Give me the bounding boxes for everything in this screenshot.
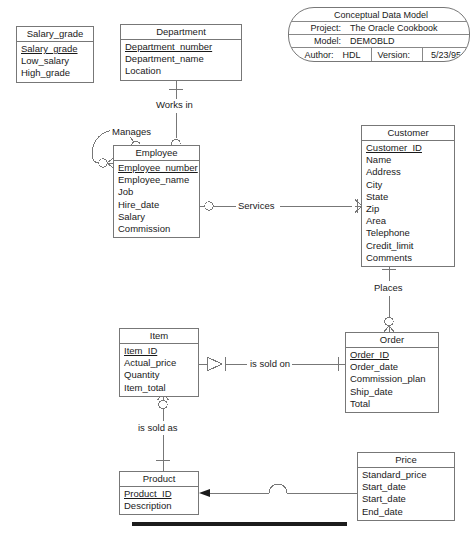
- entity-attributes-price: Standard_price Start_date Start_date End…: [358, 468, 454, 520]
- entity-title-product: Product: [120, 472, 198, 487]
- attribute: Employee_name: [114, 174, 199, 186]
- attribute: Department_number: [121, 41, 241, 53]
- entity-attributes-employee: Employee_number Employee_name Job Hire_d…: [114, 161, 199, 237]
- author-label: Author:: [289, 50, 338, 60]
- attribute: Item_ID: [120, 345, 198, 357]
- relationship-label-manages: Manages: [110, 126, 153, 137]
- relationship-line-services: [200, 199, 362, 213]
- title-block-project-row: Project: The Oracle Cookbook: [289, 22, 469, 35]
- attribute: Standard_price: [358, 469, 454, 481]
- attribute: Total: [346, 398, 438, 410]
- title-block-heading: Conceptual Data Model: [330, 10, 428, 20]
- entity-attributes-customer: Customer_ID Name Address City State Zip …: [362, 141, 454, 266]
- attribute: Product_ID: [120, 488, 198, 500]
- er-diagram-canvas: Conceptual Data Model Project: The Oracl…: [0, 0, 476, 535]
- attribute: City: [362, 179, 454, 191]
- entity-title-order: Order: [346, 333, 438, 348]
- attribute: Job: [114, 186, 199, 198]
- entity-attributes-product: Product_ID Description: [120, 487, 198, 514]
- entity-salary-grade[interactable]: Salary_grade Salary_grade Low_salary Hig…: [16, 26, 94, 83]
- attribute: Zip: [362, 203, 454, 215]
- relationship-line-price-product: [209, 484, 357, 493]
- model-label: Model:: [289, 36, 346, 46]
- attribute: Start_date: [358, 493, 454, 505]
- attribute: Low_salary: [17, 55, 93, 67]
- relationship-label-is-sold-on: is sold on: [248, 358, 292, 369]
- entity-title-customer: Customer: [362, 126, 454, 141]
- attribute: Telephone: [362, 227, 454, 239]
- project-label: Project:: [289, 23, 346, 33]
- relationship-label-works-in: Works in: [154, 99, 195, 110]
- version-label: Version:: [372, 50, 421, 60]
- attribute: Address: [362, 166, 454, 178]
- attribute: Salary_grade: [17, 43, 93, 55]
- entity-attributes-order: Order_ID Order_date Commission_plan Ship…: [346, 348, 438, 412]
- relationship-line-works-in: [169, 78, 183, 155]
- relationship-label-is-sold-as: is sold as: [136, 422, 180, 433]
- attribute: Order_date: [346, 361, 438, 373]
- attribute: Credit_limit: [362, 240, 454, 252]
- relationship-line-places: [382, 256, 396, 333]
- version-value: 5/23/95: [423, 50, 469, 60]
- attribute: Actual_price: [120, 357, 198, 369]
- entity-attributes-item: Item_ID Actual_price Quantity Item_total: [120, 344, 198, 396]
- attribute: Comments: [362, 252, 454, 264]
- entity-order[interactable]: Order Order_ID Order_date Commission_pla…: [345, 332, 439, 413]
- attribute: Ship_date: [346, 386, 438, 398]
- entity-title-price: Price: [358, 453, 454, 468]
- project-value: The Oracle Cookbook: [346, 23, 469, 33]
- attribute: Customer_ID: [362, 142, 454, 154]
- attribute: Order_ID: [346, 349, 438, 361]
- attribute: Commission_plan: [346, 373, 438, 385]
- bottom-rule: [132, 522, 347, 526]
- attribute: High_grade: [17, 67, 93, 79]
- attribute: Description: [120, 500, 198, 512]
- attribute: Salary: [114, 211, 199, 223]
- relationship-label-services: Services: [236, 200, 276, 211]
- entity-attributes-department: Department_number Department_name Locati…: [121, 40, 241, 80]
- title-block-heading-row: Conceptual Data Model: [289, 8, 469, 22]
- arrowhead-price-to-product: [199, 489, 210, 497]
- entity-attributes-salary-grade: Salary_grade Low_salary High_grade: [17, 42, 93, 82]
- entity-price[interactable]: Price Standard_price Start_date Start_da…: [357, 452, 455, 521]
- model-value: DEMOBLD: [346, 36, 469, 46]
- title-block-model-row: Model: DEMOBLD: [289, 35, 469, 48]
- entity-department[interactable]: Department Department_number Department_…: [120, 24, 242, 81]
- attribute: Start_date: [358, 481, 454, 493]
- attribute: Item_total: [120, 382, 198, 394]
- attribute: Department_name: [121, 53, 241, 65]
- attribute: Name: [362, 154, 454, 166]
- attribute: Hire_date: [114, 199, 199, 211]
- entity-customer[interactable]: Customer Customer_ID Name Address City S…: [361, 125, 455, 267]
- entity-item[interactable]: Item Item_ID Actual_price Quantity Item_…: [119, 328, 199, 397]
- relationship-label-places: Places: [372, 282, 405, 293]
- attribute: Commission: [114, 223, 199, 235]
- entity-employee[interactable]: Employee Employee_number Employee_name J…: [113, 145, 200, 238]
- attribute: Employee_number: [114, 162, 199, 174]
- entity-title-department: Department: [121, 25, 241, 40]
- entity-product[interactable]: Product Product_ID Description: [119, 471, 199, 515]
- attribute: End_date: [358, 506, 454, 518]
- title-block: Conceptual Data Model Project: The Oracl…: [288, 7, 470, 62]
- attribute: State: [362, 191, 454, 203]
- attribute: Location: [121, 65, 241, 77]
- entity-title-item: Item: [120, 329, 198, 344]
- author-value: HDL: [338, 50, 371, 60]
- attribute: Quantity: [120, 369, 198, 381]
- attribute: Area: [362, 215, 454, 227]
- entity-title-salary-grade: Salary_grade: [17, 27, 93, 42]
- title-block-author-row: Author: HDL Version: 5/23/95: [289, 48, 469, 61]
- entity-title-employee: Employee: [114, 146, 199, 161]
